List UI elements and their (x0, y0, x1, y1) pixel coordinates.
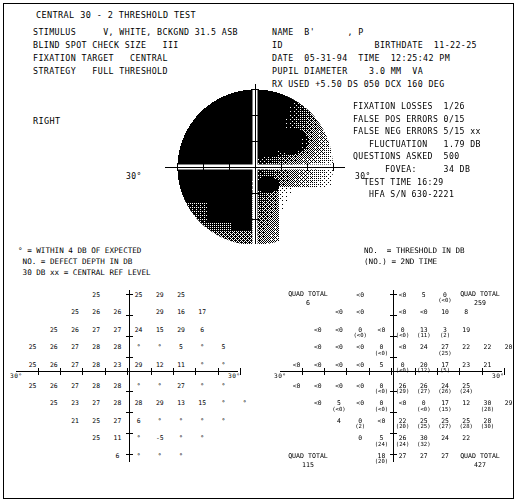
grid-value-cell: 6 (128, 418, 149, 424)
grid-value-cell: <0 (307, 362, 328, 368)
grid-value-cell: ° (213, 362, 234, 368)
grid-retest-value: (11) (413, 333, 434, 339)
grid-value-cell: 24 (413, 344, 434, 350)
grid-value-cell: ° (149, 383, 170, 389)
grid-value-cell: 0(<0) (392, 327, 413, 339)
grid-value-cell: ° (192, 435, 213, 441)
grid-value-cell: 28 (107, 383, 128, 389)
grid-value-cell: <0 (307, 344, 328, 350)
grid-value: 20 (498, 344, 518, 350)
axis-tick (302, 368, 303, 375)
hfa-serial-number: HFA S/N 630-2221 (353, 189, 454, 199)
grid-value: 27 (107, 418, 128, 424)
fluctuation: FLUCTUATION 1.79 DB (353, 139, 481, 149)
grid-value-cell: ° (192, 418, 213, 424)
grid-value: 27 (170, 383, 191, 389)
grid-value: 26 (64, 327, 85, 333)
quad-total-bottom-left: QUAD TOTAL115 (278, 452, 338, 470)
grid-value-cell: <0 (350, 309, 371, 315)
grid-value-cell: 15 (192, 400, 213, 406)
grid-value-cell: <0 (328, 383, 349, 389)
grid-value-cell: 26 (64, 327, 85, 333)
grid-retest-value: (25) (434, 351, 455, 357)
grid-retest-value: (<0) (371, 389, 392, 395)
grid-value-cell: 22(20) (392, 418, 413, 430)
grid-value-cell: ° (170, 435, 191, 441)
axis-tick (459, 368, 460, 375)
grid-retest-value: (12) (413, 368, 434, 374)
grid-value: ° (170, 435, 191, 441)
grid-value-cell: 24 (434, 435, 455, 441)
grid-value-cell: 6 (107, 453, 128, 459)
grid-value: <0 (307, 362, 328, 368)
reliability-indices: FIXATION LOSSES 1/26FALSE POS ERRORS 0/1… (353, 100, 481, 201)
grid-value: 25 (22, 383, 43, 389)
grid-value-cell: <0 (371, 327, 392, 333)
grid-value: 22 (456, 435, 477, 441)
grid-retest-value: (<0) (392, 368, 413, 374)
grid-value-cell: <0 (371, 418, 392, 424)
grid-value: ° (149, 344, 170, 350)
grid-value-cell: 25(24) (456, 383, 477, 395)
axis-tick (369, 368, 370, 375)
grid-value-cell: ° (170, 418, 191, 424)
grid-value-cell: ° (170, 453, 191, 459)
quad-total-top-right: QUAD TOTAL259 (450, 290, 510, 308)
grid-value-cell: 28 (107, 344, 128, 350)
grid-value-cell: ° (192, 344, 213, 350)
defect-grid-right-degree: 30° (228, 372, 240, 379)
grid-value: <0 (286, 362, 307, 368)
grid-value-cell: 0(<0) (371, 344, 392, 356)
grid-value-cell: ° (234, 400, 255, 406)
grid-value: 28 (128, 400, 149, 406)
grid-value: 6 (128, 418, 149, 424)
grid-value: 4 (328, 418, 349, 424)
grid-value-cell: ° (128, 344, 149, 350)
questions-asked: QUESTIONS ASKED 500 (353, 151, 460, 161)
quad-total-bottom-left-label: QUAD TOTAL (288, 452, 328, 460)
grid-value-cell: 21 (64, 418, 85, 424)
axis-tick (482, 368, 483, 375)
grid-value-cell: 27(25) (434, 344, 455, 356)
grid-value-cell: 25 (128, 292, 149, 298)
grid-value: ° (213, 362, 234, 368)
grid-value: ° (149, 453, 170, 459)
grid-value: <0 (307, 400, 328, 406)
grid-value-cell: ° (149, 418, 170, 424)
grid-value-cell: 25 (86, 435, 107, 441)
grid-value-cell: 23 (64, 400, 85, 406)
grid-value: <0 (286, 383, 307, 389)
grid-retest-value: (27) (434, 424, 455, 430)
axis-tick (126, 433, 133, 434)
grid-value: <0 (328, 309, 349, 315)
grid-value-cell: 25 (86, 418, 107, 424)
grid-value: 26 (43, 383, 64, 389)
pupil-diameter-line: PUPIL DIAMETER 3.0 MM VA (272, 66, 423, 76)
grid-value: <0 (392, 292, 413, 298)
grid-value-cell: 26(29) (392, 383, 413, 395)
grid-value: 25 (22, 344, 43, 350)
grid-retest-value: (32) (413, 442, 434, 448)
grid-retest-value: (15) (434, 407, 455, 413)
stimulus-line: STIMULUS V, WHITE, BCKGND 31.5 ASB (33, 27, 238, 37)
axis-tick (390, 433, 397, 434)
grid-value-cell: 11 (170, 362, 191, 368)
grid-value: 26 (43, 344, 64, 350)
grid-value: 27 (64, 383, 85, 389)
grid-value-cell: 29 (149, 400, 170, 406)
axis-tick (105, 368, 106, 375)
grid-value-cell: 23 (456, 362, 477, 368)
grid-retest-value: (<0) (328, 407, 349, 413)
grid-value: 25 (22, 362, 43, 368)
grid-value-cell: 10 (434, 309, 455, 315)
grid-value: <0 (307, 327, 328, 333)
patient-id-line: ID BIRTHDATE 11-22-25 (272, 40, 477, 50)
grid-retest-value: (24) (371, 442, 392, 448)
grid-value: 21 (64, 418, 85, 424)
grid-value-cell: 0(<0) (350, 327, 371, 339)
grid-retest-value: (30) (477, 424, 498, 430)
axis-tick (38, 368, 39, 375)
grid-value-cell: 26 (43, 362, 64, 368)
axis-tick (126, 336, 133, 337)
grid-value: 8 (456, 309, 477, 315)
